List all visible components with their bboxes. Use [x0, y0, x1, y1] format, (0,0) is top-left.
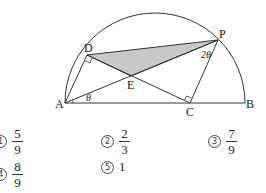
choice-marker-5: 5 [101, 161, 114, 174]
numerator: 5 [14, 127, 21, 140]
choice-3[interactable]: 3 7 9 [208, 126, 237, 156]
choice-marker-3: 3 [208, 135, 221, 148]
choice-marker-2: 2 [101, 135, 114, 148]
label-A: A [55, 97, 64, 111]
numerator: 7 [228, 127, 235, 140]
choice-marker-1: 1 [0, 135, 7, 148]
shaded-triangle-DEP [87, 40, 218, 76]
choice-1[interactable]: 1 5 9 [0, 126, 23, 156]
denominator: 9 [14, 176, 21, 189]
label-B: B [246, 97, 254, 111]
choice-value: 1 [119, 159, 126, 175]
fraction: 5 9 [12, 127, 23, 156]
choice-5[interactable]: 5 1 [101, 152, 126, 182]
denominator: 9 [14, 143, 21, 156]
right-angle-mark-C [185, 96, 192, 101]
geometry-figure: A B C D E P θ 2θ [0, 0, 266, 120]
numerator: 8 [14, 160, 21, 173]
choice-4[interactable]: 4 8 9 [0, 159, 23, 189]
angle-two-theta-label: 2θ [201, 49, 211, 60]
label-C: C [186, 105, 194, 119]
angle-theta-label: θ [86, 92, 91, 103]
choice-marker-4: 4 [0, 168, 7, 181]
label-P: P [219, 27, 226, 41]
label-E: E [127, 78, 134, 92]
numerator: 2 [121, 127, 128, 140]
denominator: 9 [228, 143, 235, 156]
label-D: D [84, 41, 93, 55]
fraction: 7 9 [226, 127, 237, 156]
fraction: 8 9 [12, 160, 23, 189]
